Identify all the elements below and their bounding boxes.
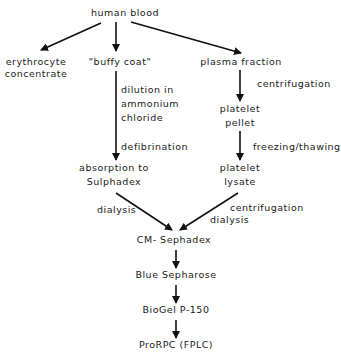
label-dilution-line2: ammonium bbox=[121, 98, 179, 110]
node-erythrocyte-line1: erythrocyte bbox=[6, 56, 67, 68]
node-platelet-pellet-line1: platelet bbox=[220, 103, 260, 115]
node-platelet-lysate-line2: lysate bbox=[224, 176, 256, 188]
arrow-blood-to-erythrocyte bbox=[41, 23, 101, 50]
label-freezing-thawing: freezing/thawing bbox=[253, 141, 341, 153]
label-defibrination: defibrination bbox=[121, 141, 188, 153]
node-biogel: BioGel P-150 bbox=[143, 304, 210, 316]
label-centrifugation-right: centrifugation bbox=[230, 202, 304, 214]
label-dialysis-left: dialysis bbox=[97, 204, 136, 216]
label-centrifugation-plasma: centrifugation bbox=[257, 78, 331, 90]
node-platelet-lysate-line1: platelet bbox=[220, 162, 260, 174]
node-platelet-pellet-line2: pellet bbox=[225, 117, 255, 129]
node-prorpc: ProRPC (FPLC) bbox=[139, 339, 213, 351]
node-human-blood: human blood bbox=[91, 7, 159, 19]
node-blue-sepharose: Blue Sepharose bbox=[135, 269, 216, 281]
node-buffy-coat: "buffy coat" bbox=[89, 56, 152, 68]
node-plasma-fraction: plasma fraction bbox=[200, 56, 282, 68]
node-absorption-line1: absorption to bbox=[79, 162, 149, 174]
node-erythrocyte-line2: concentrate bbox=[5, 68, 68, 80]
node-cm-sephadex: CM- Sephadex bbox=[137, 234, 211, 246]
node-absorption-line2: Sulphadex bbox=[87, 176, 141, 188]
arrow-blood-to-plasma bbox=[131, 22, 241, 53]
label-dialysis-right: dialysis bbox=[210, 214, 249, 226]
label-dilution-line3: chloride bbox=[121, 112, 163, 124]
label-dilution-line1: dilution in bbox=[121, 84, 174, 96]
